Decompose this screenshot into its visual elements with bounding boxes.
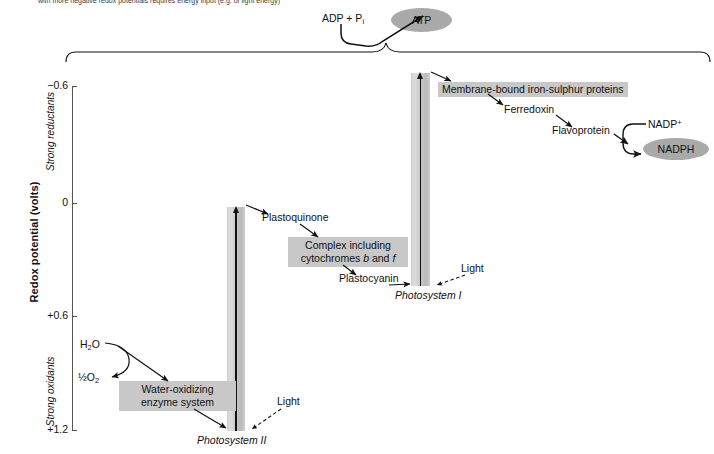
- axis-tick-0: [72, 203, 77, 204]
- axis-tick-+1.2: [72, 430, 77, 431]
- atp-brace: [66, 43, 710, 62]
- ps1-to-iron-sulphur-arrow: [431, 72, 451, 81]
- axis-title: Redox potential (volts): [28, 152, 40, 332]
- iron-sulphur-proteins-box: Membrane-bound iron-sulphur proteins: [438, 82, 628, 97]
- photosystem-1-arrow-stem: [420, 79, 421, 286]
- plastocyanin-to-ps1-arrow: [389, 284, 410, 285]
- light-to-ps1-arrow: [437, 275, 465, 285]
- cytochrome-complex-box: Complex including cytochromes b and f: [288, 237, 408, 267]
- water-oxidizing-line-2: enzyme system: [125, 396, 230, 409]
- axis-tick-+0.6: [72, 316, 77, 317]
- flavoprotein-to-nadph-arrow: [614, 134, 628, 144]
- light-to-ps2-arrow: [252, 409, 281, 429]
- water-oxidizing-enzyme-box: Water-oxidizing enzyme system: [119, 381, 236, 411]
- connector-overlay: [0, 0, 714, 454]
- nadph-product-ellipse: NADPH: [643, 138, 709, 160]
- nadph-label: NADPH: [658, 143, 695, 155]
- axis-note-strong-reductants: Strong reductants: [45, 72, 56, 192]
- ferredoxin-label: Ferredoxin: [504, 103, 554, 115]
- photosystem-1-light-label: Light: [461, 262, 484, 274]
- photosystem-1-label: Photosystem I: [395, 289, 462, 301]
- adp-pi-label: ADP + Pi: [322, 12, 364, 26]
- water-to-enzyme-arrow: [118, 346, 168, 381]
- plastoquinone-label: Plastoquinone: [262, 211, 329, 223]
- flavoprotein-label: Flavoprotein: [552, 124, 610, 136]
- water-oxidizing-line-1: Water-oxidizing: [125, 383, 230, 396]
- cytochrome-complex-line-2: cytochromes b and f: [294, 252, 402, 265]
- enzyme-to-ps2-arrow: [194, 409, 226, 428]
- oxygen-label: ½O2: [78, 371, 99, 385]
- water-label: H2O: [80, 338, 100, 352]
- water-to-oxygen-arrow: [105, 343, 129, 377]
- axis-note-strong-oxidants: Strong oxidants: [45, 332, 56, 452]
- z-scheme-diagram: with more negative redox potentials requ…: [0, 0, 714, 454]
- photosystem-2-label: Photosystem II: [197, 434, 266, 446]
- photosystem-2-arrow-head: [233, 206, 239, 213]
- caption-fragment: with more negative redox potentials requ…: [38, 0, 368, 5]
- cytochrome-complex-line-1: Complex including: [294, 239, 402, 252]
- plastocyanin-label: Plastocyanin: [339, 272, 399, 284]
- redox-axis-line: [72, 86, 73, 431]
- atp-product-ellipse: ATP: [391, 8, 452, 32]
- photosystem-1-arrow-head: [417, 72, 423, 79]
- atp-label: ATP: [412, 14, 432, 26]
- axis-tick--0.6: [72, 86, 77, 87]
- plastoquinone-to-cytochrome-arrow: [300, 224, 318, 237]
- photosystem-2-light-label: Light: [277, 395, 300, 407]
- nadp-plus-label: NADP+: [648, 118, 682, 130]
